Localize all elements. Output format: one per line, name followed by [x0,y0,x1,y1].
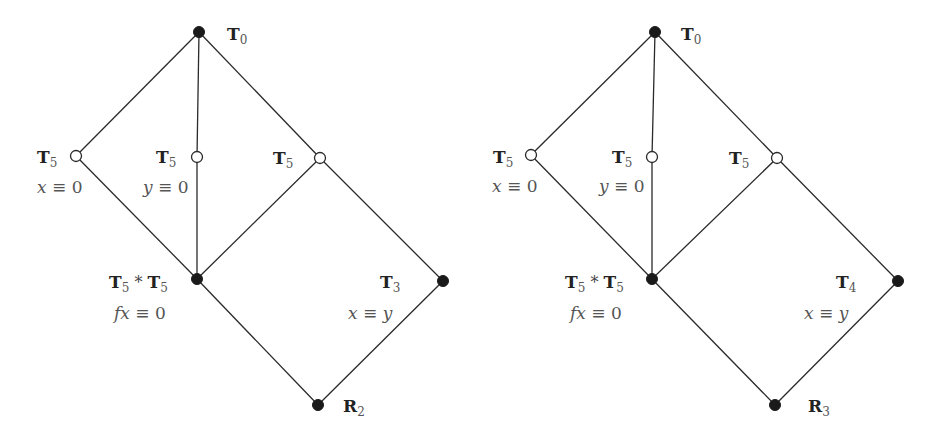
label-c: T5 [729,148,749,171]
edge-a-meet [531,155,652,279]
label-right: T4 [836,272,857,295]
edge-right-bottom [775,281,898,405]
diagram-right: T0 T5 x ≡ 0 T5 y ≡ 0 T5 T5 * T5 fx ≡ 0 T… [492,24,904,419]
eq-meet: fx ≡ 0 [568,303,622,323]
label-a: T5 [37,147,57,170]
edge-top-c [655,32,777,158]
edge-top-a [76,32,199,156]
edge-right-bottom [318,281,443,405]
edges-right [531,32,898,405]
node-c [772,153,783,164]
node-c [315,153,326,164]
node-top [194,27,205,38]
label-b: T5 [156,147,176,170]
edge-top-b [652,32,655,157]
eq-b: y ≡ 0 [142,177,189,197]
node-a [526,150,537,161]
lattice-diagrams: T0 T5 x ≡ 0 T5 y ≡ 0 T5 T5 * T5 fx ≡ 0 T… [0,0,942,443]
edges-left [76,32,443,405]
label-bottom: R3 [808,396,830,419]
edge-c-meet [652,158,777,279]
node-right [893,276,904,287]
eq-right: x ≡ y [804,303,849,323]
node-b [192,152,203,163]
label-a: T5 [493,147,513,170]
eq-right: x ≡ y [348,303,393,323]
edge-top-b [197,32,199,157]
label-meet: T5 * T5 [109,272,168,295]
node-top [650,27,661,38]
label-b: T5 [612,147,632,170]
edge-top-c [199,32,320,158]
edge-c-meet [197,158,320,279]
edge-top-a [531,32,655,155]
edge-a-meet [76,156,197,279]
diagram-left: T0 T5 x ≡ 0 T5 y ≡ 0 T5 T5 * T5 fx ≡ 0 T… [37,24,449,419]
node-meet [647,274,658,285]
node-meet [192,274,203,285]
eq-b: y ≡ 0 [598,176,645,196]
eq-a: x ≡ 0 [492,176,537,196]
label-meet: T5 * T5 [565,272,624,295]
node-right [438,276,449,287]
eq-meet: fx ≡ 0 [112,303,166,323]
edge-c-right [777,158,898,281]
label-right: T3 [380,272,400,295]
label-c: T5 [273,148,293,171]
label-top: T0 [227,24,247,47]
node-bottom [770,400,781,411]
edge-c-right [320,158,443,281]
eq-a: x ≡ 0 [37,177,82,197]
label-bottom: R2 [343,396,365,419]
node-a [71,151,82,162]
edge-meet-bottom [197,279,318,405]
node-bottom [313,400,324,411]
edge-meet-bottom [652,279,775,405]
label-top: T0 [681,24,701,47]
node-b [647,152,658,163]
